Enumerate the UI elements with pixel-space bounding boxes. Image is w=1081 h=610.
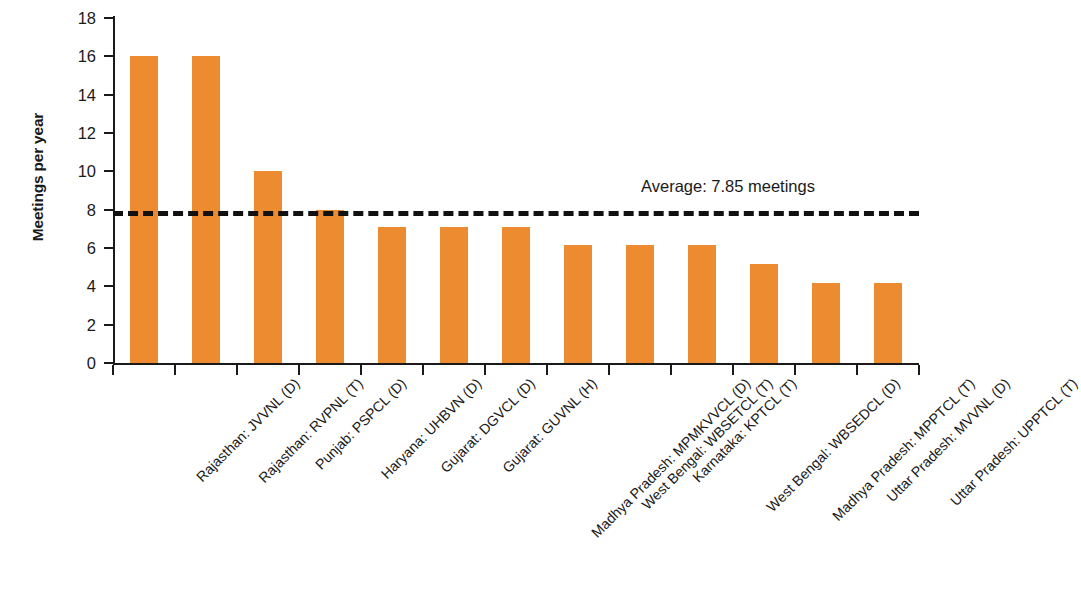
y-tick-16 [104,55,113,57]
y-tick-label-16: 16 [56,48,96,65]
y-tick-label-8: 8 [56,202,96,219]
x-tick-13 [918,365,920,375]
average-reference-line [113,211,919,216]
x-tick-10 [732,365,734,375]
y-tick-12 [104,132,113,134]
y-tick-label-6: 6 [56,240,96,257]
y-tick-6 [104,247,113,249]
y-tick-label-10: 10 [56,163,96,180]
x-tick-9 [670,365,672,375]
x-tick-5 [422,365,424,375]
y-tick-label-0: 0 [56,355,96,372]
bar[interactable] [378,227,406,363]
average-line-label: Average: 7.85 meetings [641,177,815,196]
x-tick-8 [608,365,610,375]
x-tick-3 [298,365,300,375]
x-axis-line [113,363,919,365]
x-axis-label: Rajasthan: JVVNL (D) [194,376,302,484]
x-tick-12 [856,365,858,375]
x-axis-label: West Bengal: WBSETCL (T) [639,376,775,512]
bar[interactable] [502,227,530,363]
x-tick-2 [236,365,238,375]
bar[interactable] [874,283,902,364]
y-tick-2 [104,324,113,326]
bar[interactable] [750,264,778,363]
bar[interactable] [440,227,468,363]
x-tick-1 [174,365,176,375]
y-tick-label-18: 18 [56,10,96,27]
y-tick-label-2: 2 [56,317,96,334]
x-axis-label: Madhya Pradesh: MPMKVVCL (D) [589,376,753,540]
bar[interactable] [626,245,654,363]
y-axis-title: Meetings per year [29,77,47,277]
bar[interactable] [316,210,344,363]
bar[interactable] [564,245,592,363]
y-tick-8 [104,209,113,211]
y-tick-14 [104,94,113,96]
x-tick-6 [484,365,486,375]
y-tick-label-4: 4 [56,278,96,295]
y-tick-10 [104,170,113,172]
y-tick-4 [104,285,113,287]
y-tick-label-14: 14 [56,87,96,104]
x-tick-11 [794,365,796,375]
y-tick-0 [104,362,113,364]
x-tick-0 [112,365,114,375]
bar[interactable] [254,171,282,363]
bar[interactable] [812,283,840,364]
x-tick-4 [360,365,362,375]
y-tick-18 [104,17,113,19]
y-tick-label-12: 12 [56,125,96,142]
x-tick-7 [546,365,548,375]
bar[interactable] [688,245,716,363]
